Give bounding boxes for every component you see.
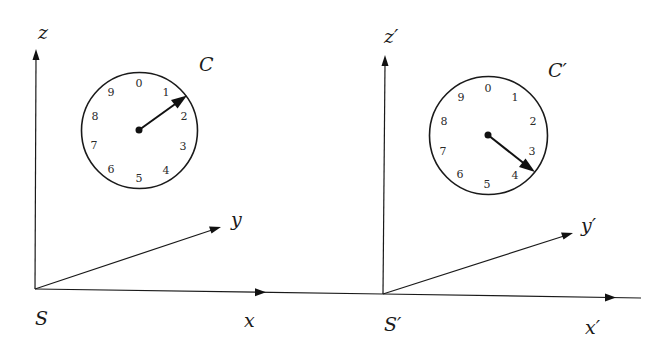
relativity-clocks-diagram: z y x S 0 1 2 3 4 5 6 7 8 9 C xyxy=(0,0,664,363)
clock-c-prime-label: C′ xyxy=(548,59,568,81)
frame-s-prime: z′ y′ x′ S′ 0 1 2 3 4 5 6 7 8 9 C′ xyxy=(382,25,642,338)
x-axis-arrow-icon xyxy=(255,288,266,296)
x-axis xyxy=(35,289,383,294)
z-prime-axis-label: z′ xyxy=(383,25,399,47)
clock-c-label: C xyxy=(199,53,214,75)
clock-c-dial-2: 2 xyxy=(181,110,188,123)
y-axis xyxy=(35,230,212,289)
z-prime-axis-arrow-icon xyxy=(382,55,389,66)
clock-c: 0 1 2 3 4 5 6 7 8 9 xyxy=(82,73,198,189)
clock-c-dial-5: 5 xyxy=(136,172,143,185)
z-axis-arrow-icon xyxy=(33,49,40,60)
clock-c-hand-arrow-icon xyxy=(171,96,187,109)
clock-c-prime-dial-7: 7 xyxy=(440,145,447,158)
clock-c-prime-dial-2: 2 xyxy=(530,115,537,128)
clock-c-dial-6: 6 xyxy=(108,163,115,176)
clock-c-hand xyxy=(139,102,178,130)
clock-c-prime-dial-4: 4 xyxy=(512,169,519,182)
origin-label-s: S xyxy=(35,307,48,329)
y-axis-arrow-icon xyxy=(209,227,221,234)
clock-c-dial-9: 9 xyxy=(108,86,115,99)
x-axis-label: x xyxy=(244,309,255,331)
clock-c-prime-dial-5: 5 xyxy=(484,178,491,191)
z-axis-label: z xyxy=(37,21,49,43)
y-axis-label: y xyxy=(230,208,242,230)
frame-s: z y x S 0 1 2 3 4 5 6 7 8 9 C xyxy=(33,21,384,331)
x-prime-axis-label: x′ xyxy=(585,316,601,338)
clock-c-prime-dial-1: 1 xyxy=(512,91,519,104)
clock-c-prime-hand xyxy=(488,135,526,165)
clock-c-prime-dial-0: 0 xyxy=(485,82,492,95)
z-axis xyxy=(35,58,36,289)
clock-c-pivot xyxy=(136,127,143,134)
clock-c-dial-0: 0 xyxy=(136,77,143,90)
z-prime-axis xyxy=(383,64,385,294)
clock-c-prime: 0 1 2 3 4 5 6 7 8 9 xyxy=(430,77,548,195)
x-prime-axis xyxy=(383,294,641,298)
clock-c-dial-4: 4 xyxy=(163,164,170,177)
clock-c-dial-3: 3 xyxy=(180,140,187,153)
clock-c-dial-7: 7 xyxy=(91,139,98,152)
clock-c-prime-pivot xyxy=(485,132,492,139)
clock-c-dial-8: 8 xyxy=(92,110,99,123)
clock-c-prime-dial-9: 9 xyxy=(458,91,465,104)
y-prime-axis-arrow-icon xyxy=(561,233,573,240)
x-prime-axis-arrow-icon xyxy=(605,294,616,302)
clock-c-dial-1: 1 xyxy=(163,86,170,99)
clock-c-prime-dial-6: 6 xyxy=(457,168,464,181)
y-prime-axis-label: y′ xyxy=(580,214,597,236)
y-prime-axis xyxy=(383,236,564,294)
clock-c-prime-dial-8: 8 xyxy=(441,115,448,128)
clock-c-prime-dial-3: 3 xyxy=(529,145,536,158)
origin-label-s-prime: S′ xyxy=(384,313,402,335)
